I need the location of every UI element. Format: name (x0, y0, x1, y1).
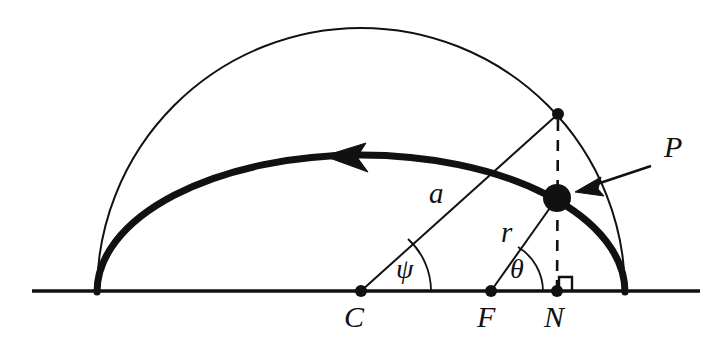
label-semi-major-axis-a: a (429, 179, 444, 208)
point-marker-C (355, 285, 367, 297)
label-center-C: C (344, 302, 364, 332)
orbit-ellipse-arc (97, 155, 625, 292)
label-eccentric-anomaly-psi: ψ (396, 255, 413, 283)
label-point-P: P (664, 132, 682, 162)
point-marker-Q (552, 108, 564, 120)
semi-major-axis-line (361, 114, 558, 291)
point-marker-F (485, 285, 497, 297)
diagram-svg (0, 0, 728, 351)
label-radius-r: r (501, 218, 512, 247)
label-foot-N: N (544, 302, 564, 332)
label-true-anomaly-theta: θ (510, 255, 524, 283)
label-focus-F: F (477, 302, 495, 332)
point-marker-P (543, 184, 571, 212)
p-annotation-arrowhead-icon (575, 177, 604, 196)
figure-canvas: C F N P a r ψ θ (0, 0, 728, 351)
auxiliary-circle-arc (97, 28, 625, 292)
point-marker-N (551, 285, 563, 297)
